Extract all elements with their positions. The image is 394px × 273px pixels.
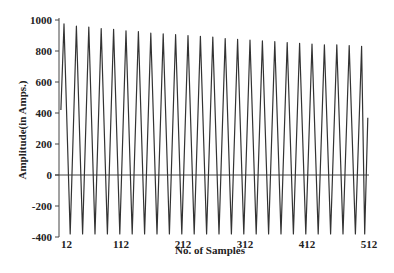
y-tick-label: 600 bbox=[36, 76, 53, 88]
x-axis-title: No. of Samples bbox=[175, 244, 246, 256]
waveform-line bbox=[61, 24, 368, 234]
x-tick-label: 12 bbox=[61, 238, 73, 250]
y-tick-label: 400 bbox=[36, 107, 53, 119]
x-tick-label: 112 bbox=[113, 238, 129, 250]
x-tick-label: 512 bbox=[361, 238, 378, 250]
y-axis: -400-20002004006008001000 bbox=[30, 14, 59, 243]
x-tick-label: 412 bbox=[299, 238, 316, 250]
y-tick-label: 1000 bbox=[30, 14, 53, 26]
waveform-series bbox=[61, 24, 368, 234]
y-tick-label: 0 bbox=[47, 169, 53, 181]
y-tick-label: 800 bbox=[36, 45, 53, 57]
y-axis-title: Amplitude(in Amps.) bbox=[16, 80, 29, 179]
y-tick-label: 200 bbox=[36, 138, 53, 150]
y-tick-label: -400 bbox=[32, 231, 53, 243]
y-tick-label: -200 bbox=[32, 200, 53, 212]
amplitude-line-chart: -400-20002004006008001000 12112212312412… bbox=[0, 0, 394, 273]
